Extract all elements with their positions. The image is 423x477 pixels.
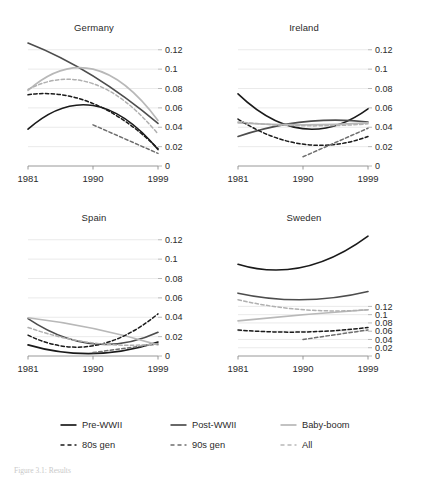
- series-line-pre-wwii: [238, 236, 368, 270]
- legend-row: 80s gen90s genAll: [60, 435, 390, 455]
- svg-text:0.02: 0.02: [165, 142, 183, 152]
- legend-swatch-solid: [60, 420, 77, 430]
- svg-text:0: 0: [375, 161, 380, 171]
- plot-germany: 00.020.040.060.080.10.12198119901999: [6, 34, 206, 209]
- legend-item-80s-gen[interactable]: 80s gen: [60, 440, 170, 450]
- svg-text:1999: 1999: [147, 363, 168, 374]
- svg-text:1981: 1981: [17, 173, 38, 184]
- legend-row: Pre-WWIIPost-WWIIBaby-boom: [60, 415, 390, 435]
- svg-text:0.1: 0.1: [165, 64, 178, 74]
- svg-text:1990: 1990: [292, 173, 313, 184]
- panel-title-spain: Spain: [0, 212, 194, 223]
- series-line-post-wwii: [28, 319, 158, 345]
- svg-text:0.06: 0.06: [165, 293, 183, 303]
- svg-text:0.12: 0.12: [375, 45, 393, 55]
- svg-text:0: 0: [165, 161, 170, 171]
- panel-spain: Spain 00.020.040.060.080.10.121981199019…: [6, 212, 206, 402]
- panel-title-ireland: Ireland: [204, 22, 404, 33]
- legend-item-all[interactable]: All: [280, 440, 390, 450]
- legend-swatch-dashed: [280, 440, 297, 450]
- legend-item-baby-boom[interactable]: Baby-boom: [280, 420, 390, 430]
- figure-panel-grid: Germany 00.020.040.060.080.10.1219811990…: [0, 0, 423, 477]
- svg-text:0: 0: [165, 351, 170, 361]
- legend-swatch-dashed: [170, 440, 187, 450]
- svg-text:0.04: 0.04: [165, 122, 183, 132]
- svg-text:1999: 1999: [147, 173, 168, 184]
- plot-ireland: 00.020.040.060.080.10.12198119901999: [216, 34, 416, 209]
- svg-text:0.06: 0.06: [375, 103, 393, 113]
- svg-text:0.1: 0.1: [165, 254, 178, 264]
- svg-text:1981: 1981: [227, 363, 248, 374]
- series-line-baby-boom: [28, 318, 158, 345]
- legend-label: Post-WWII: [192, 420, 236, 430]
- svg-text:0.02: 0.02: [375, 142, 393, 152]
- legend-item-90s-gen[interactable]: 90s gen: [170, 440, 280, 450]
- legend-label: 90s gen: [192, 440, 225, 450]
- svg-text:1990: 1990: [292, 363, 313, 374]
- svg-text:1990: 1990: [82, 363, 103, 374]
- svg-text:0.12: 0.12: [375, 302, 393, 312]
- series-line-90s-gen: [303, 128, 368, 157]
- legend-swatch-dashed: [60, 440, 77, 450]
- svg-text:0.12: 0.12: [165, 45, 183, 55]
- svg-text:1999: 1999: [357, 363, 378, 374]
- svg-text:0.08: 0.08: [165, 274, 183, 284]
- svg-text:0.12: 0.12: [165, 235, 183, 245]
- panel-ireland: Ireland 00.020.040.060.080.10.1219811990…: [216, 22, 416, 212]
- svg-text:0.1: 0.1: [375, 64, 388, 74]
- figure-caption: Figure 3.1: Results: [14, 466, 71, 475]
- legend-swatch-solid: [170, 420, 187, 430]
- svg-text:0.02: 0.02: [165, 332, 183, 342]
- plot-sweden: 00.020.040.060.080.10.12198119901999: [216, 224, 416, 399]
- legend-label: All: [302, 440, 312, 450]
- svg-text:0.08: 0.08: [375, 84, 393, 94]
- legend-label: Pre-WWII: [82, 420, 122, 430]
- legend-swatch-solid: [280, 420, 297, 430]
- svg-text:0.06: 0.06: [165, 103, 183, 113]
- svg-text:0.08: 0.08: [165, 84, 183, 94]
- series-line-all: [238, 300, 368, 311]
- panel-title-germany: Germany: [0, 22, 194, 33]
- svg-text:1981: 1981: [227, 173, 248, 184]
- legend-label: Baby-boom: [302, 420, 350, 430]
- svg-text:1990: 1990: [82, 173, 103, 184]
- chart-legend: Pre-WWIIPost-WWIIBaby-boom 80s gen90s ge…: [60, 415, 390, 463]
- svg-text:0.04: 0.04: [165, 312, 183, 322]
- panel-germany: Germany 00.020.040.060.080.10.1219811990…: [6, 22, 206, 212]
- legend-label: 80s gen: [82, 440, 115, 450]
- plot-spain: 00.020.040.060.080.10.12198119901999: [6, 224, 206, 399]
- legend-item-post-wwii[interactable]: Post-WWII: [170, 420, 280, 430]
- svg-text:1999: 1999: [357, 173, 378, 184]
- panel-title-sweden: Sweden: [204, 212, 404, 223]
- panel-sweden: Sweden 00.020.040.060.080.10.12198119901…: [216, 212, 416, 402]
- series-line-80s-gen: [28, 94, 158, 149]
- series-line-post-wwii: [238, 292, 368, 300]
- svg-text:0.04: 0.04: [375, 122, 393, 132]
- legend-item-pre-wwii[interactable]: Pre-WWII: [60, 420, 170, 430]
- svg-text:1981: 1981: [17, 363, 38, 374]
